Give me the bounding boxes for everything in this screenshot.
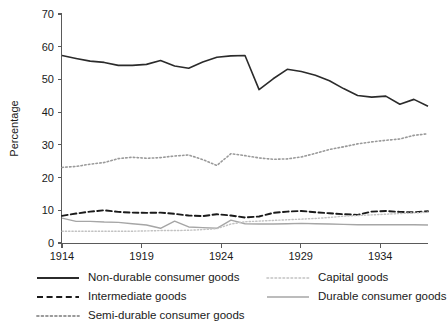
- y-tick-label: 20: [42, 172, 54, 184]
- series-line-3: [62, 218, 428, 228]
- legend-item-label: Intermediate goods: [88, 290, 186, 303]
- legend-line-swatch: [36, 272, 80, 284]
- legend-line-swatch: [36, 310, 80, 322]
- y-tick-label: 70: [42, 8, 54, 20]
- x-tick-label: 1924: [209, 250, 233, 262]
- y-tick-label: 10: [42, 204, 54, 216]
- legend-item[interactable]: Durable consumer goods: [266, 287, 442, 306]
- legend-item[interactable]: Non-durable consumer goods: [36, 268, 266, 287]
- x-tick-label: 1919: [129, 250, 153, 262]
- legend-swatch: [36, 272, 80, 284]
- series-line-0: [62, 56, 428, 107]
- y-axis-title: Percentage: [8, 100, 20, 156]
- chart-legend: Non-durable consumer goodsIntermediate g…: [0, 268, 442, 330]
- legend-item-label: Non-durable consumer goods: [88, 271, 240, 284]
- series-line-2: [62, 210, 428, 217]
- legend-line-swatch: [36, 291, 80, 303]
- legend-item[interactable]: Semi-durable consumer goods: [36, 306, 266, 325]
- y-tick-label: 50: [42, 73, 54, 85]
- line-chart: 01020304050607019141919192419291934Perce…: [0, 0, 442, 268]
- legend-swatch: [36, 291, 80, 303]
- y-tick-label: 40: [42, 106, 54, 118]
- x-tick-label: 1934: [368, 250, 392, 262]
- legend-item-label: Capital goods: [318, 271, 388, 284]
- legend-swatch: [266, 291, 310, 303]
- legend-item[interactable]: Capital goods: [266, 268, 442, 287]
- legend-column-left: Non-durable consumer goodsIntermediate g…: [36, 268, 266, 325]
- x-tick-label: 1929: [288, 250, 312, 262]
- legend-line-swatch: [266, 291, 310, 303]
- x-tick-label: 1914: [50, 250, 74, 262]
- chart-plot-area: 01020304050607019141919192419291934Perce…: [0, 0, 442, 268]
- y-tick-label: 0: [48, 237, 54, 249]
- legend-line-swatch: [266, 272, 310, 284]
- legend-swatch: [36, 310, 80, 322]
- legend-item[interactable]: Intermediate goods: [36, 287, 266, 306]
- series-line-1: [62, 134, 428, 168]
- legend-item-label: Semi-durable consumer goods: [88, 309, 245, 322]
- y-tick-label: 60: [42, 41, 54, 53]
- legend-item-label: Durable consumer goods: [318, 290, 447, 303]
- y-tick-label: 30: [42, 139, 54, 151]
- legend-swatch: [266, 272, 310, 284]
- legend-column-right: Capital goodsDurable consumer goods: [266, 268, 442, 306]
